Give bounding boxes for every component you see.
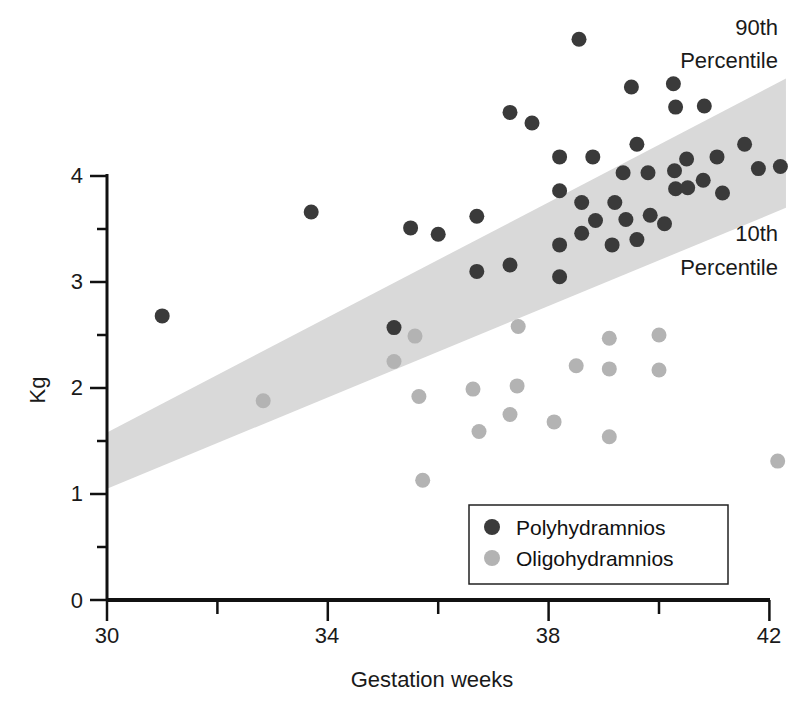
data-point-polyhydramnios — [607, 195, 622, 210]
data-point-polyhydramnios — [572, 32, 587, 47]
data-point-polyhydramnios — [387, 320, 402, 335]
y-tick-label-2: 2 — [71, 375, 83, 400]
x-axis-title: Gestation weeks — [351, 667, 514, 692]
data-point-polyhydramnios — [431, 227, 446, 242]
data-point-polyhydramnios — [552, 269, 567, 284]
data-point-polyhydramnios — [715, 186, 730, 201]
annotation-90th-line1: 90th — [735, 15, 778, 40]
data-point-oligohydramnios — [411, 389, 426, 404]
data-point-polyhydramnios — [679, 152, 694, 167]
data-point-oligohydramnios — [256, 393, 271, 408]
data-point-polyhydramnios — [616, 165, 631, 180]
data-point-polyhydramnios — [552, 183, 567, 198]
y-tick-label-4: 4 — [71, 163, 83, 188]
legend-label-polyhydramnios: Polyhydramnios — [516, 516, 665, 539]
data-point-oligohydramnios — [472, 424, 487, 439]
data-point-polyhydramnios — [751, 161, 766, 176]
data-point-polyhydramnios — [618, 212, 633, 227]
legend: Polyhydramnios Oligohydramnios — [469, 505, 728, 584]
data-point-oligohydramnios — [652, 328, 667, 343]
legend-marker-oligohydramnios — [484, 550, 500, 566]
x-axis: 30 34 38 42 Gestation weeks — [95, 600, 781, 692]
legend-label-oligohydramnios: Oligohydramnios — [516, 547, 674, 570]
data-point-polyhydramnios — [666, 76, 681, 91]
scatter-chart: 90th Percentile 10th Percentile 4 3 2 1 … — [0, 0, 799, 709]
x-tick-label-34: 34 — [315, 623, 339, 648]
data-point-oligohydramnios — [510, 378, 525, 393]
data-point-polyhydramnios — [605, 237, 620, 252]
data-point-polyhydramnios — [588, 213, 603, 228]
legend-marker-polyhydramnios — [484, 519, 500, 535]
data-point-polyhydramnios — [574, 195, 589, 210]
data-point-oligohydramnios — [602, 429, 617, 444]
data-point-oligohydramnios — [547, 414, 562, 429]
data-point-polyhydramnios — [503, 105, 518, 120]
data-point-polyhydramnios — [641, 165, 656, 180]
x-tick-label-30: 30 — [95, 623, 119, 648]
annotation-10th-line2: Percentile — [680, 255, 778, 280]
data-point-oligohydramnios — [602, 361, 617, 376]
data-point-polyhydramnios — [629, 232, 644, 247]
data-point-oligohydramnios — [770, 454, 785, 469]
data-point-polyhydramnios — [574, 226, 589, 241]
data-point-polyhydramnios — [525, 116, 540, 131]
data-point-oligohydramnios — [569, 358, 584, 373]
data-point-oligohydramnios — [503, 407, 518, 422]
data-point-polyhydramnios — [155, 308, 170, 323]
data-point-polyhydramnios — [773, 159, 788, 174]
annotation-90th-line2: Percentile — [680, 48, 778, 73]
data-point-polyhydramnios — [403, 220, 418, 235]
data-point-oligohydramnios — [415, 473, 430, 488]
y-axis: 4 3 2 1 0 Kg — [25, 163, 107, 613]
data-point-oligohydramnios — [387, 354, 402, 369]
data-point-polyhydramnios — [657, 216, 672, 231]
data-point-polyhydramnios — [667, 163, 682, 178]
data-point-polyhydramnios — [697, 99, 712, 114]
data-point-polyhydramnios — [585, 149, 600, 164]
data-point-oligohydramnios — [466, 382, 481, 397]
data-point-oligohydramnios — [602, 331, 617, 346]
data-point-oligohydramnios — [652, 363, 667, 378]
data-point-oligohydramnios — [408, 329, 423, 344]
annotation-90th-percentile: 90th Percentile — [680, 15, 778, 73]
data-point-polyhydramnios — [710, 149, 725, 164]
data-point-polyhydramnios — [624, 80, 639, 95]
data-point-polyhydramnios — [469, 264, 484, 279]
x-tick-label-42: 42 — [757, 623, 781, 648]
y-tick-label-1: 1 — [71, 481, 83, 506]
data-point-polyhydramnios — [668, 100, 683, 115]
data-point-polyhydramnios — [696, 173, 711, 188]
x-tick-label-38: 38 — [536, 623, 560, 648]
data-point-polyhydramnios — [643, 208, 658, 223]
data-point-polyhydramnios — [680, 180, 695, 195]
annotation-10th-line1: 10th — [735, 221, 778, 246]
y-axis-title: Kg — [25, 377, 50, 404]
data-point-polyhydramnios — [552, 149, 567, 164]
data-point-polyhydramnios — [629, 137, 644, 152]
data-point-polyhydramnios — [737, 137, 752, 152]
data-point-polyhydramnios — [552, 237, 567, 252]
data-point-oligohydramnios — [511, 319, 526, 334]
y-tick-label-0: 0 — [71, 588, 83, 613]
data-point-polyhydramnios — [304, 205, 319, 220]
data-point-polyhydramnios — [503, 258, 518, 273]
data-point-polyhydramnios — [469, 209, 484, 224]
percentile-band — [107, 78, 786, 488]
y-tick-label-3: 3 — [71, 269, 83, 294]
